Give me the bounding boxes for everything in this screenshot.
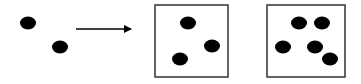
- dot: [275, 41, 291, 54]
- diagram-canvas: [0, 0, 361, 84]
- dot: [314, 17, 330, 30]
- dot: [20, 17, 36, 30]
- dot: [307, 41, 323, 54]
- dot: [204, 40, 220, 53]
- dot: [322, 53, 338, 66]
- box-three-dots: [155, 5, 228, 77]
- dot: [291, 17, 307, 30]
- box-frame: [267, 5, 345, 77]
- dot: [172, 53, 188, 66]
- loose-dots-group: [20, 17, 68, 54]
- dot: [180, 17, 196, 30]
- boxes-group: [155, 5, 345, 77]
- dot: [52, 41, 68, 54]
- box-five-dots: [267, 5, 345, 77]
